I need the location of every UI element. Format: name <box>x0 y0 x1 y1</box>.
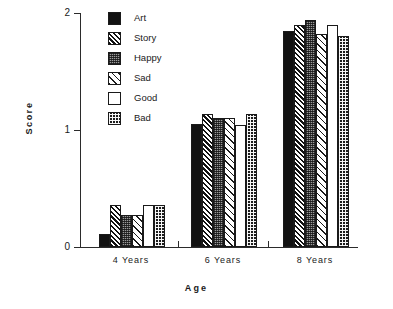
bar-happy-6-years <box>213 118 224 247</box>
y-axis-title: Score <box>24 88 34 148</box>
x-axis-line <box>80 247 358 248</box>
bar-bad-6-years <box>246 114 257 247</box>
bar-bad-4-years <box>154 205 165 247</box>
legend-item-art[interactable]: Art <box>108 8 188 28</box>
legend-swatch-happy-icon <box>108 52 121 65</box>
y-axis-tick-label-1: 1 <box>46 125 70 135</box>
x-axis-title: Age <box>0 283 393 293</box>
chart-legend: ArtStoryHappySadGoodBad <box>108 8 188 128</box>
y-axis-tick-0 <box>74 247 81 248</box>
legend-label: Bad <box>134 113 151 123</box>
x-axis-tick-label-4-years: 4 Years <box>88 255 174 265</box>
legend-swatch-sad-icon <box>108 72 121 85</box>
y-axis-tick-label-0: 0 <box>46 242 70 252</box>
legend-swatch-bad-icon <box>108 112 121 125</box>
bar-happy-4-years <box>121 215 132 247</box>
y-axis-tick-label-2: 2 <box>46 8 70 18</box>
bar-story-8-years <box>294 25 305 247</box>
legend-item-happy[interactable]: Happy <box>108 48 188 68</box>
legend-item-good[interactable]: Good <box>108 88 188 108</box>
legend-item-sad[interactable]: Sad <box>108 68 188 88</box>
legend-label: Art <box>134 13 146 23</box>
bar-sad-4-years <box>132 215 143 247</box>
bar-art-6-years <box>191 124 202 247</box>
legend-label: Story <box>134 33 156 43</box>
legend-item-bad[interactable]: Bad <box>108 108 188 128</box>
legend-label: Good <box>134 93 157 103</box>
x-axis-tick-label-6-years: 6 Years <box>180 255 266 265</box>
bar-chart-figure: Score 2 1 0 4 Years 6 Years 8 Years Age … <box>0 0 393 309</box>
legend-swatch-story-icon <box>108 32 121 45</box>
bar-good-4-years <box>143 205 154 247</box>
bar-bad-8-years <box>338 36 349 247</box>
bar-sad-6-years <box>224 118 235 247</box>
bar-happy-8-years <box>305 20 316 247</box>
legend-label: Happy <box>134 53 161 63</box>
legend-item-story[interactable]: Story <box>108 28 188 48</box>
legend-label: Sad <box>134 73 151 83</box>
bar-good-6-years <box>235 125 246 247</box>
legend-swatch-art-icon <box>108 12 121 25</box>
bar-story-6-years <box>202 114 213 247</box>
bar-good-8-years <box>327 25 338 247</box>
bar-art-8-years <box>283 31 294 247</box>
x-axis-tick-label-8-years: 8 Years <box>272 255 358 265</box>
bar-art-4-years <box>99 234 110 247</box>
legend-swatch-good-icon <box>108 92 121 105</box>
bar-story-4-years <box>110 205 121 247</box>
bar-sad-8-years <box>316 34 327 247</box>
